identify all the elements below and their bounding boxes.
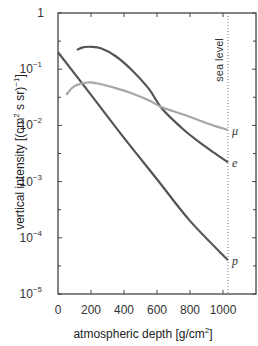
x-tick-label: 800: [180, 303, 200, 317]
x-tick-label: 1000: [210, 303, 237, 317]
curve-mu: [66, 82, 228, 130]
y-tick-label: 10−5: [20, 285, 43, 301]
curves: peμ: [58, 47, 238, 268]
plot-frame: [58, 13, 256, 294]
y-tick-label: 1: [37, 6, 44, 20]
y-tick-label: 10−4: [20, 229, 43, 245]
y-axis-title: vertical intensity [(cm2 s sr)−1]: [12, 74, 27, 230]
sea-level-label: sea level: [213, 38, 225, 81]
curve-label-mu: μ: [231, 124, 238, 138]
y-tick-label: 10−1: [20, 60, 43, 76]
intensity-chart: 110−110−210−310−410−5 02004006008001000 …: [0, 0, 258, 346]
x-tick-label: 200: [81, 303, 101, 317]
curve-label-p: p: [231, 254, 238, 268]
x-tick-label: 0: [55, 303, 62, 317]
x-axis-title: atmospheric depth [g/cm2]: [73, 326, 212, 341]
x-tick-label: 600: [147, 303, 167, 317]
curve-label-e: e: [232, 156, 238, 170]
x-tick-label: 400: [114, 303, 134, 317]
